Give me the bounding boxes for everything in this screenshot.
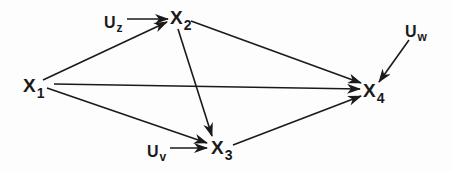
node-uz-sub: z [117, 21, 123, 35]
node-x4: X4 [363, 81, 384, 100]
node-uv-main: U [147, 143, 159, 160]
node-uv: Uv [147, 144, 166, 160]
node-x4-main: X [363, 80, 376, 101]
node-x3-sub: 3 [225, 147, 233, 163]
node-x4-sub: 4 [377, 90, 385, 106]
node-uw: Uw [405, 24, 427, 40]
node-uw-sub: w [418, 30, 427, 44]
node-x2: X2 [170, 8, 191, 27]
edge-x2-x3 [178, 29, 212, 136]
node-x1: X1 [23, 76, 44, 95]
node-x1-sub: 1 [37, 85, 45, 101]
edge-uw-x4 [379, 40, 409, 82]
node-x2-main: X [170, 7, 183, 28]
node-uw-main: U [405, 23, 417, 40]
node-x3-main: X [211, 137, 224, 158]
edge-x1-x4 [54, 84, 360, 89]
node-uv-sub: v [160, 150, 167, 164]
node-x2-sub: 2 [184, 17, 192, 33]
node-x1-main: X [23, 75, 36, 96]
node-uz: Uz [104, 15, 123, 31]
node-x3: X3 [211, 138, 232, 157]
edge-x2-x4 [191, 21, 361, 83]
path-diagram: X1 X2 X3 X4 Uz Uv Uw [0, 0, 452, 171]
node-uz-main: U [104, 14, 116, 31]
edge-x1-x3 [47, 88, 207, 143]
edge-x3-x4 [233, 96, 361, 145]
